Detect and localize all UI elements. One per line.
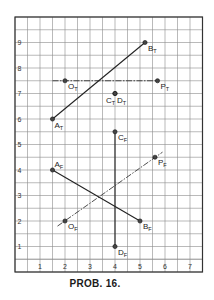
y-tick-label: 9 bbox=[18, 39, 22, 46]
point-pf bbox=[153, 155, 157, 159]
point-label-bt: BT bbox=[148, 44, 157, 54]
point-label-pt: PT bbox=[161, 82, 170, 92]
segment-of-pf bbox=[58, 152, 163, 226]
y-tick-label: 2 bbox=[18, 218, 22, 225]
point-cf bbox=[113, 130, 117, 134]
y-tick-label: 3 bbox=[18, 192, 22, 199]
point-label-ot: OT bbox=[68, 82, 78, 92]
point-label-bf: BF bbox=[143, 222, 152, 232]
axis-tick-labels: 1234567123456789 bbox=[18, 39, 193, 270]
y-tick-label: 7 bbox=[18, 90, 22, 97]
y-tick-label: 5 bbox=[18, 141, 22, 148]
x-tick-label: 7 bbox=[188, 263, 192, 270]
orthographic-projection-grid: 1234567123456789 ATBTOTPTCTDTAFBFCFDFOFP… bbox=[0, 0, 214, 300]
point-ot bbox=[63, 79, 67, 83]
x-tick-label: 4 bbox=[113, 263, 117, 270]
grid-lines bbox=[15, 17, 203, 272]
point-label-pf: PF bbox=[158, 158, 167, 168]
point-label-df: DF bbox=[118, 248, 128, 258]
x-tick-label: 2 bbox=[63, 263, 67, 270]
point-bf bbox=[138, 219, 142, 223]
x-tick-label: 1 bbox=[38, 263, 42, 270]
point-label-at: AT bbox=[55, 121, 64, 131]
y-tick-label: 8 bbox=[18, 65, 22, 72]
point-label-cf: CF bbox=[118, 133, 128, 143]
y-tick-label: 1 bbox=[18, 243, 22, 250]
point-bt bbox=[143, 40, 147, 44]
problem-caption: PROB. 16. bbox=[0, 278, 190, 289]
point-pt bbox=[155, 79, 159, 83]
x-tick-label: 6 bbox=[163, 263, 167, 270]
x-tick-label: 3 bbox=[88, 263, 92, 270]
point-label-dt: DT bbox=[117, 96, 127, 106]
point-label-af: AF bbox=[55, 160, 64, 170]
projection-points: ATBTOTPTCTDTAFBFCFDFOFPF bbox=[50, 40, 169, 257]
x-tick-label: 5 bbox=[138, 263, 142, 270]
y-tick-label: 4 bbox=[18, 167, 22, 174]
point-label-of: OF bbox=[68, 222, 78, 232]
point-df bbox=[113, 244, 117, 248]
y-tick-label: 6 bbox=[18, 116, 22, 123]
point-of bbox=[63, 219, 67, 223]
point-label-ct: CT bbox=[106, 96, 116, 106]
